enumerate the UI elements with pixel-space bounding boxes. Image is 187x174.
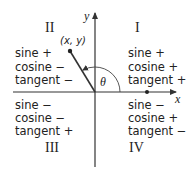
quadrant-iv-cosine: cosine + bbox=[128, 111, 178, 125]
quadrant-iii: sine − cosine − tangent + III bbox=[15, 98, 73, 155]
quadrant-iv-tangent: tangent − bbox=[128, 124, 186, 138]
quadrant-i: I sine + cosine + tangent + bbox=[128, 20, 186, 87]
point-label: (x, y) bbox=[60, 35, 86, 46]
quadrant-ii: II sine + cosine − tangent − bbox=[15, 20, 73, 87]
quadrant-ii-sine: sine + bbox=[15, 46, 52, 60]
quadrant-iv-sine: sine − bbox=[128, 98, 165, 112]
angle-label: θ bbox=[100, 75, 106, 89]
quadrant-iii-sine: sine − bbox=[15, 98, 52, 112]
quadrant-sign-diagram: x y (x, y) θ II sine + cosine − tangent … bbox=[0, 0, 187, 174]
quadrant-iii-tangent: tangent + bbox=[15, 124, 73, 138]
quadrant-iii-numeral: III bbox=[45, 140, 59, 155]
y-axis-label: y bbox=[83, 9, 90, 23]
x-axis-label: x bbox=[174, 92, 181, 106]
x-axis-point-marker bbox=[145, 90, 149, 94]
quadrant-i-sine: sine + bbox=[128, 46, 165, 60]
quadrant-i-numeral: I bbox=[135, 20, 140, 35]
quadrant-ii-cosine: cosine − bbox=[15, 60, 65, 74]
quadrant-i-cosine: cosine + bbox=[128, 60, 178, 74]
terminal-side bbox=[70, 51, 95, 92]
quadrant-iv-numeral: IV bbox=[129, 140, 144, 155]
quadrant-iv: sine − cosine + tangent − IV bbox=[128, 98, 186, 155]
quadrant-iii-cosine: cosine − bbox=[15, 111, 65, 125]
quadrant-i-tangent: tangent + bbox=[128, 73, 186, 87]
point-marker bbox=[68, 49, 72, 53]
quadrant-ii-numeral: II bbox=[45, 20, 55, 35]
quadrant-ii-tangent: tangent − bbox=[15, 73, 73, 87]
